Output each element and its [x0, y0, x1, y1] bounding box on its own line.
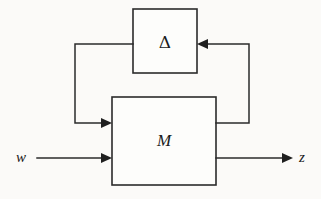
m-block-label: M — [156, 131, 172, 150]
w-signal-label: w — [16, 149, 26, 165]
block-diagram-figure: Δ M w z — [0, 0, 321, 199]
m-feedback-arrowhead-icon — [197, 39, 208, 49]
z-output-arrowhead-icon — [282, 153, 293, 163]
delta-block-label: Δ — [159, 32, 171, 52]
diagram-canvas: Δ M w z — [0, 0, 321, 199]
w-input-arrowhead-icon — [101, 153, 112, 163]
z-signal-label: z — [298, 149, 305, 165]
delta-feedback-arrowhead-icon — [101, 118, 112, 128]
